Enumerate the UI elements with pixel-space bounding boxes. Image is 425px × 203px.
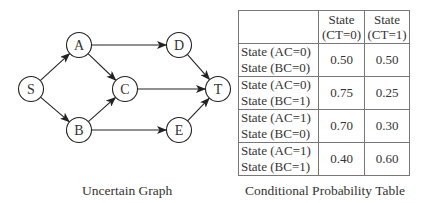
graph-caption: Uncertain Graph (82, 183, 172, 199)
table-caption: Conditional Probability Table (245, 183, 405, 199)
condition-ac: State (AC=1) (241, 110, 318, 126)
condition-ac: State (AC=1) (241, 143, 318, 159)
table-row: State (AC=1) State (BC=1) 0.40 0.60 (239, 143, 410, 176)
prob-ct1: 0.60 (365, 143, 410, 176)
header-ct1-line2: (CT=1) (365, 27, 409, 42)
condition-bc: State (BC=0) (241, 126, 318, 142)
node-e: E (167, 118, 192, 143)
table-row: State (AC=1) State (BC=0) 0.70 0.30 (239, 110, 410, 143)
edge-b-c (88, 98, 115, 122)
node-label: S (27, 82, 35, 97)
node-c: C (113, 77, 138, 102)
edge-d-t (187, 54, 209, 79)
header-ct0-line1: State (319, 12, 364, 27)
condition-bc: State (BC=0) (241, 60, 318, 76)
header-corner-cell (239, 11, 319, 44)
prob-ct1: 0.30 (365, 110, 410, 143)
condition-cell: State (AC=1) State (BC=1) (239, 143, 319, 176)
node-t: T (206, 77, 231, 102)
node-s: S (19, 77, 44, 102)
graph-nodes: SABCDET (19, 33, 231, 143)
uncertain-graph: SABCDET (0, 0, 235, 180)
node-label: C (120, 82, 129, 97)
prob-ct0: 0.50 (319, 44, 365, 77)
edge-s-b (41, 97, 70, 121)
condition-cell: State (AC=0) State (BC=0) (239, 44, 319, 77)
node-label: B (74, 123, 83, 138)
prob-ct1: 0.50 (365, 44, 410, 77)
table-row: State (AC=0) State (BC=0) 0.50 0.50 (239, 44, 410, 77)
condition-ac: State (AC=0) (241, 77, 318, 93)
condition-cell: State (AC=1) State (BC=0) (239, 110, 319, 143)
prob-ct0: 0.75 (319, 77, 365, 110)
table-row: State (AC=0) State (BC=1) 0.75 0.25 (239, 77, 410, 110)
conditional-probability-table: State (CT=0) State (CT=1) State (AC=0) S… (238, 10, 410, 176)
prob-ct1: 0.25 (365, 77, 410, 110)
edge-a-c (88, 54, 116, 80)
node-b: B (67, 118, 92, 143)
node-label: E (175, 123, 184, 138)
node-d: D (167, 33, 192, 58)
prob-ct0: 0.40 (319, 143, 365, 176)
condition-bc: State (BC=1) (241, 93, 318, 109)
node-a: A (67, 33, 92, 58)
header-ct0-line2: (CT=0) (319, 27, 364, 42)
condition-ac: State (AC=0) (241, 44, 318, 60)
edge-e-t (188, 98, 209, 121)
header-ct1-line1: State (365, 12, 409, 27)
node-label: A (74, 38, 85, 53)
condition-bc: State (BC=1) (241, 159, 318, 175)
header-ct0: State (CT=0) (319, 11, 365, 44)
header-ct1: State (CT=1) (365, 11, 410, 44)
node-label: D (174, 38, 184, 53)
node-label: T (214, 82, 223, 97)
condition-cell: State (AC=0) State (BC=1) (239, 77, 319, 110)
edge-s-a (40, 54, 69, 81)
prob-ct0: 0.70 (319, 110, 365, 143)
table-header-row: State (CT=0) State (CT=1) (239, 11, 410, 44)
